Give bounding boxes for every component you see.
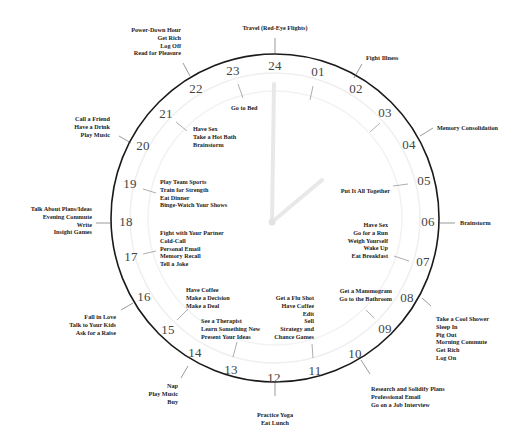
hour-10: 10 [348, 346, 362, 362]
hour-21: 21 [159, 106, 173, 122]
hour-12: 12 [267, 370, 281, 386]
activity-10: Research and Solidify Plans Professional… [371, 385, 445, 408]
activity-16: Fall in Love Talk to Your Kids Ask for a… [40, 313, 116, 336]
activity-11: Get a Flu Shot Have Coffee Edit Sell Str… [258, 294, 314, 341]
activity-12: Practice Yoga Eat Lunch [235, 411, 315, 427]
activity-08: Take a Cool Shower Sleep In Pig Out Morn… [436, 315, 489, 362]
activity-18: Talk About Plans/Ideas Evening Commute W… [10, 205, 92, 236]
activity-24: Travel (Red-Eye Flights) [215, 24, 335, 32]
hour-24: 24 [268, 58, 282, 74]
hour-18: 18 [119, 214, 133, 230]
hour-01: 01 [311, 64, 325, 80]
hour-11: 11 [308, 363, 321, 379]
hour-02: 02 [349, 81, 363, 97]
hour-06: 06 [421, 214, 435, 230]
activity-05: Put It All Together [320, 187, 390, 195]
activity-13: See a Therapist Learn Something New Pres… [201, 317, 260, 340]
hour-08: 08 [400, 290, 414, 306]
activity-20: Call a Friend Have a Drink Play Music [40, 115, 110, 138]
hour-20: 20 [136, 138, 150, 154]
hour-03: 03 [378, 105, 392, 121]
hour-07: 07 [416, 254, 430, 270]
activity-23: Go to Bed [231, 104, 257, 112]
activity-21: Have Sex Take a Hot Bath Brainstorm [193, 125, 236, 148]
hour-09: 09 [378, 321, 392, 337]
minute-hand-icon [272, 180, 322, 222]
hour-22: 22 [189, 81, 203, 97]
hour-17: 17 [124, 249, 138, 265]
activity-17: Fight with Your Partner Cold-Call Person… [160, 229, 224, 268]
hour-13: 13 [224, 362, 238, 378]
activity-19: Play Team Sports Train for Strength Eat … [160, 178, 227, 209]
activity-02: Fight Illness [366, 54, 399, 62]
activity-06: Brainstorm [460, 219, 491, 227]
hour-05: 05 [417, 173, 431, 189]
activity-22: Power-Down Hour Get Rich Log Off Read fo… [100, 26, 181, 57]
hour-23: 23 [226, 63, 240, 79]
activity-14: Nap Play Music Buy [128, 382, 178, 405]
activity-07: Have Sex Go for a Run Weigh Yourself Wak… [326, 221, 388, 260]
activity-09: Get a Mammogram Go to the Bathroom [322, 287, 392, 303]
hour-15: 15 [161, 322, 175, 338]
hour-hand-icon [272, 84, 274, 222]
hour-16: 16 [137, 289, 151, 305]
activity-04: Memory Consolidation [437, 124, 498, 132]
hour-04: 04 [402, 137, 416, 153]
activity-15: Have Coffee Make a Decision Make a Deal [186, 286, 230, 309]
hour-19: 19 [123, 176, 137, 192]
hand-pivot-icon [269, 219, 276, 226]
hour-14: 14 [188, 345, 202, 361]
